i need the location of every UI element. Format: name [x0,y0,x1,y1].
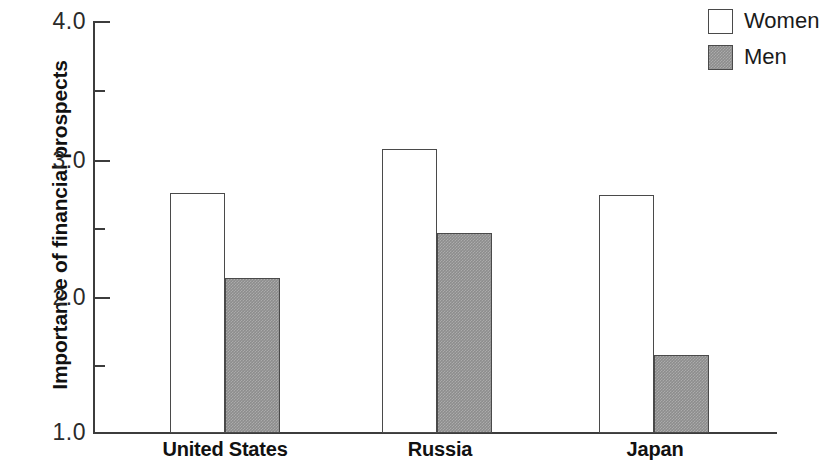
x-axis-label-united-states: United States [115,438,335,461]
legend-label-men: Men [744,44,787,70]
legend-swatch-women-icon [708,9,733,34]
y-tick-minor-3-5 [94,90,105,92]
bar-russia-women [382,149,437,433]
bar-russia-men [437,233,492,433]
y-tick-label-3-0: 3.0 [26,147,86,174]
legend-label-women: Women [744,8,819,34]
bar-united-states-men [225,278,280,433]
legend-item-women: Women [708,6,819,36]
y-tick-1-0 [94,432,110,434]
y-tick-label-1-0: 1.0 [26,419,86,446]
bar-united-states-women [170,193,225,433]
y-tick-minor-2-5 [94,228,105,230]
y-axis-title: Importance of financial prospects [48,15,72,435]
legend-swatch-men-icon [708,45,733,70]
y-tick-3-0 [94,160,110,162]
bar-japan-men [654,355,709,433]
x-axis-label-russia: Russia [330,438,550,461]
y-tick-2-0 [94,297,110,299]
y-tick-label-4-0: 4.0 [26,8,86,35]
bar-chart: Importance of financial prospects 4.0 3.… [0,0,834,469]
y-tick-label-2-0: 2.0 [26,284,86,311]
bar-japan-women [599,195,654,433]
y-tick-minor-1-5 [94,365,105,367]
x-axis-label-japan: Japan [545,438,765,461]
legend-item-men: Men [708,42,819,72]
legend: Women Men [708,6,819,78]
y-tick-4-0 [94,21,110,23]
